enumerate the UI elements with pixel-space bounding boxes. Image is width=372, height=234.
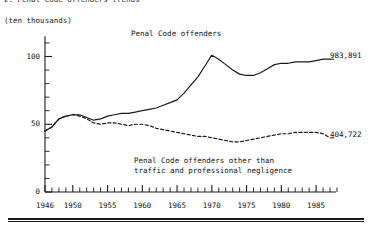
series-label-line-2: traffic and professional negligence <box>134 166 292 176</box>
series-label-penal-code-offenders-other: Penal Code offenders other than traffic … <box>134 156 292 176</box>
end-value-label-upper: 983,891 <box>330 51 362 60</box>
x-tick-label-1970: 1970 <box>197 201 227 210</box>
y-tick-label-0: 0 <box>14 187 40 196</box>
x-tick-label-1975: 1975 <box>232 201 262 210</box>
end-value-label-lower: 404,722 <box>330 130 362 139</box>
x-tick-label-1980: 1980 <box>266 201 296 210</box>
series-label-penal-code-offenders: Penal Code offenders <box>131 29 221 39</box>
x-tick-label-1950: 1950 <box>58 201 88 210</box>
y-tick-label-50: 50 <box>14 119 40 128</box>
series-label-line-1: Penal Code offenders other than <box>134 156 292 166</box>
x-tick-label-1960: 1960 <box>127 201 157 210</box>
x-tick-label-1946: 1946 <box>30 201 60 210</box>
x-tick-label-1985: 1985 <box>301 201 331 210</box>
chart-figure: 2. Penal Code offenders trends (ten thou… <box>0 0 372 234</box>
bottom-divider-rule <box>8 218 364 222</box>
y-axis-unit-label: (ten thousands) <box>4 16 72 25</box>
x-tick-label-1965: 1965 <box>162 201 192 210</box>
y-tick-label-100: 100 <box>14 52 40 61</box>
series-line-penal-code-offenders-other <box>45 115 330 142</box>
x-tick-label-1955: 1955 <box>93 201 123 210</box>
figure-title: 2. Penal Code offenders trends <box>4 0 139 4</box>
